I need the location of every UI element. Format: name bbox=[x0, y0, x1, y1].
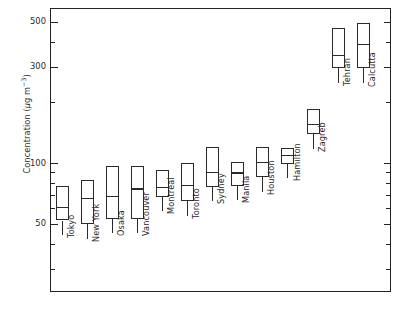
y-tick-minor-60 bbox=[50, 208, 55, 209]
y-tick-major-50 bbox=[50, 224, 58, 225]
box-median-line bbox=[56, 207, 69, 208]
box-lower-stem bbox=[62, 221, 63, 236]
x-tick-label-houston: Houston bbox=[266, 160, 276, 195]
y-tick-minor-70 bbox=[50, 195, 55, 196]
y-tick-minor-200 bbox=[50, 102, 55, 103]
x-tick-label-tokyo: Tokyo bbox=[66, 215, 76, 238]
y-tick-minor-400 bbox=[50, 42, 55, 43]
box-lower-stem bbox=[338, 68, 339, 83]
y-tick-major-100 bbox=[384, 163, 392, 164]
y-tick-minor-90 bbox=[386, 172, 391, 173]
x-tick-label-toronto: Toronto bbox=[191, 188, 201, 219]
box-median-line bbox=[332, 55, 345, 56]
box-lower-stem bbox=[262, 177, 263, 192]
y-tick-minor-40 bbox=[50, 244, 55, 245]
y-tick-minor-70 bbox=[386, 195, 391, 196]
box-median-line bbox=[231, 172, 244, 173]
y-tick-minor-60 bbox=[386, 208, 391, 209]
box-lower-stem bbox=[363, 68, 364, 83]
y-tick-minor-30 bbox=[386, 269, 391, 270]
box-lower-stem bbox=[237, 186, 238, 200]
box-median-line bbox=[181, 185, 194, 186]
y-tick-major-50 bbox=[384, 224, 392, 225]
box-median-line bbox=[357, 44, 370, 45]
box-median-line bbox=[81, 198, 94, 199]
y-tick-minor-80 bbox=[386, 183, 391, 184]
x-tick-label-tehran: Tehran bbox=[342, 58, 352, 86]
x-tick-label-osaka: Osaka bbox=[116, 210, 126, 236]
x-tick-label-calcutta: Calcutta bbox=[367, 52, 377, 87]
x-tick-label-montreal: Montreal bbox=[166, 177, 176, 214]
box-lower-stem bbox=[287, 164, 288, 178]
y-tick-major-500 bbox=[384, 22, 392, 23]
y-tick-minor-200 bbox=[386, 102, 391, 103]
y-tick-label-500: 500 bbox=[6, 17, 46, 25]
x-tick-label-zagreb: Zagreb bbox=[317, 122, 327, 152]
box-lower-stem bbox=[162, 197, 163, 211]
y-tick-label-50: 50 bbox=[6, 219, 46, 227]
y-tick-major-300 bbox=[384, 67, 392, 68]
x-tick-label-manila: Manila bbox=[241, 175, 251, 202]
y-tick-minor-80 bbox=[50, 183, 55, 184]
box-lower-stem bbox=[112, 219, 113, 233]
box-lower-stem bbox=[137, 219, 138, 233]
y-tick-major-100 bbox=[50, 163, 58, 164]
y-tick-major-500 bbox=[50, 22, 58, 23]
y-axis-label: Concentration (µg m−3) bbox=[20, 24, 32, 224]
y-tick-minor-400 bbox=[386, 42, 391, 43]
y-tick-major-300 bbox=[50, 67, 58, 68]
box-lower-stem bbox=[212, 187, 213, 201]
y-tick-minor-30 bbox=[50, 269, 55, 270]
y-tick-minor-40 bbox=[386, 244, 391, 245]
box-lower-stem bbox=[87, 224, 88, 239]
box-median-line bbox=[131, 188, 144, 189]
y-tick-label-300: 300 bbox=[6, 62, 46, 70]
x-tick-label-hamilton: Hamilton bbox=[292, 144, 302, 182]
box-plot-figure: Concentration (µg m−3) 50030010050 Tokyo… bbox=[0, 0, 413, 309]
box-lower-stem bbox=[187, 201, 188, 216]
box-median-line bbox=[106, 196, 119, 197]
y-tick-minor-90 bbox=[50, 172, 55, 173]
x-tick-label-vancouver: Vancouver bbox=[141, 192, 151, 236]
box-lower-stem bbox=[313, 134, 314, 149]
x-tick-label-sydney: Sydney bbox=[216, 173, 226, 204]
y-tick-label-100: 100 bbox=[6, 159, 46, 167]
x-tick-label-new-york: New York bbox=[91, 204, 101, 242]
